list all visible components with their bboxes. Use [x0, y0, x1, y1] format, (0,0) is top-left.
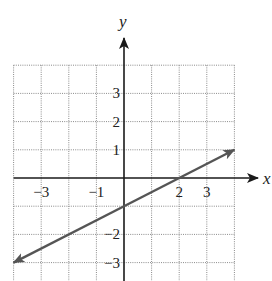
y-tick-label: 3: [113, 85, 121, 101]
x-tick-label: −3: [33, 184, 49, 200]
y-tick-label: 2: [113, 114, 121, 130]
coordinate-plane: x y −3−123321−2−3: [0, 0, 272, 281]
x-tick-label: −1: [88, 184, 104, 200]
y-tick-label: −2: [104, 226, 120, 242]
x-axis-label: x: [262, 169, 271, 188]
x-tick-label: 3: [203, 184, 211, 200]
y-tick-label: −3: [104, 255, 120, 271]
axes: x y: [14, 12, 271, 281]
y-axis-label: y: [117, 12, 127, 31]
x-tick-label: 2: [175, 184, 183, 200]
y-tick-label: 1: [113, 142, 121, 158]
